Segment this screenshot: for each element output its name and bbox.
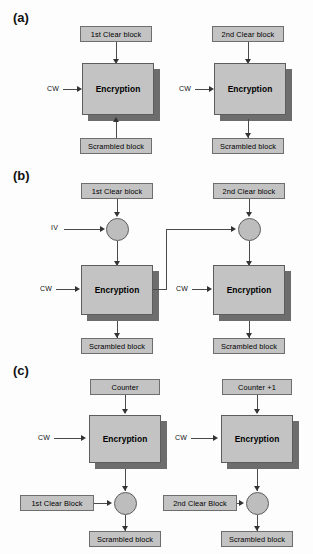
key-label-a2: CW [179,85,191,92]
section-label-a: (a) [13,10,29,25]
key-line-b1 [56,289,76,290]
encryption-label-b1: Encryption [81,265,153,315]
clear-line-c1 [94,503,108,504]
key-label-a1: CW [47,85,59,92]
connector-a1-out [116,121,117,139]
clear-block-a2: 2nd Clear block [212,26,284,42]
encryption-block-c2: Encryption [221,415,293,463]
arrowhead-key-a1 [77,86,82,92]
encryption-label-b2: Encryption [213,265,285,315]
key-label-b2: CW [176,285,188,292]
key-label-b1: CW [40,285,52,292]
scrambled-block-b1: Scrambled block [81,338,153,354]
clear-block-c1: 1st Clear Block [20,495,94,511]
section-label-c: (c) [13,363,29,378]
arrowhead-iv-b1 [100,226,105,232]
counter-block-c1: Counter [90,379,160,395]
xor-node-b2 [238,218,261,241]
encryption-block-a1: Encryption [82,63,154,115]
encryption-label-c1: Encryption [89,415,161,463]
encryption-block-c1: Encryption [89,415,161,463]
key-line-c1 [54,438,82,439]
arrowhead-key-c1 [81,435,86,441]
arrowhead-c1-to-xor [122,486,128,491]
key-line-c2 [191,438,214,439]
encryption-label-c2: Encryption [221,415,293,463]
arrowhead-clear-c2 [239,500,244,506]
arrowhead-clear-c1 [107,500,112,506]
encryption-label-a1: Encryption [82,63,154,115]
scrambled-block-a2: Scrambled block [212,138,284,154]
xor-node-b1 [106,218,129,241]
clear-block-c2: 2nd Clear Block [163,495,237,511]
key-label-c1: CW [38,434,50,441]
encryption-label-a2: Encryption [214,63,286,115]
arrowhead-b2-in [246,212,252,217]
key-line-a2 [195,89,210,90]
arrowhead-key-c2 [213,435,218,441]
feedback-line-v [166,229,167,290]
encryption-block-a2: Encryption [214,63,286,115]
arrowhead-a1-out [113,117,119,122]
arrowhead-b1-in [114,212,120,217]
arrowhead-c2-in [254,409,260,414]
encryption-block-b1: Encryption [81,265,153,315]
xor-node-c1 [114,492,137,515]
arrowhead-feedback-b2 [231,226,236,232]
iv-label-b1: IV [51,224,58,231]
arrowhead-key-b1 [75,286,80,292]
clear-block-a1: 1st Clear block [80,26,152,42]
diagram-canvas: (a) 1st Clear block Encryption CW Scramb… [0,0,313,554]
arrowhead-key-b2 [207,286,212,292]
arrowhead-c2-to-xor [254,486,260,491]
key-line-b2 [192,289,208,290]
arrowhead-key-a2 [209,86,214,92]
clear-block-b2: 2nd Clear block [213,183,285,199]
clear-block-b1: 1st Clear block [81,183,153,199]
scrambled-block-b2: Scrambled block [213,338,285,354]
iv-line-b1 [64,229,102,230]
section-label-b: (b) [13,168,30,183]
scrambled-block-c2: Scrambled block [221,531,293,547]
counter-block-c2: Counter +1 [222,379,292,395]
scrambled-block-a1: Scrambled block [80,138,152,154]
xor-node-c2 [246,492,269,515]
feedback-line-h1 [153,289,167,290]
feedback-line-h2 [166,229,233,230]
scrambled-block-c1: Scrambled block [89,531,161,547]
encryption-block-b2: Encryption [213,265,285,315]
key-label-c2: CW [175,434,187,441]
arrowhead-c1-in [122,409,128,414]
key-line-a1 [63,89,78,90]
